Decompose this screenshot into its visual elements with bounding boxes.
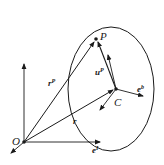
point-origin-o bbox=[22, 140, 26, 144]
label-r: r bbox=[73, 116, 77, 126]
label-c: C bbox=[114, 96, 122, 108]
point-c bbox=[114, 87, 118, 91]
label-p: P bbox=[99, 30, 107, 42]
label-o: O bbox=[12, 135, 20, 147]
vector-r-p bbox=[24, 42, 94, 142]
vector-c-to-p bbox=[98, 42, 116, 89]
point-p bbox=[94, 37, 98, 41]
label-u-p: uP bbox=[95, 67, 104, 77]
label-e-inertial: eI bbox=[92, 145, 99, 155]
rigid-body-kinematics-diagram: O P C rP r uP eb eI bbox=[0, 0, 164, 165]
label-e-b: eb bbox=[137, 84, 144, 94]
label-r-p: rP bbox=[48, 78, 56, 88]
